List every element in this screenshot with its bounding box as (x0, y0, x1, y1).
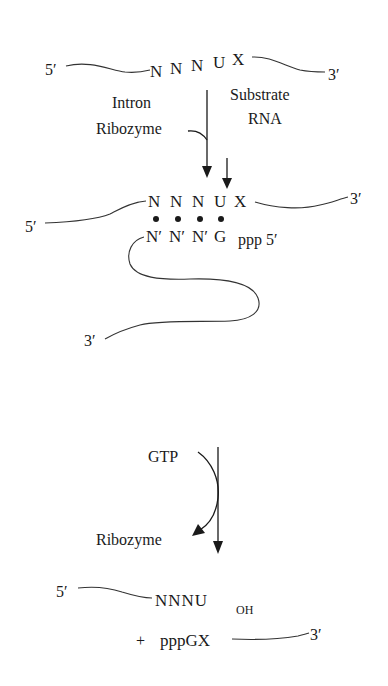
base-5: X (232, 50, 244, 69)
three-prime-label: 3′ (328, 66, 340, 83)
step1-labels: Intron Ribozyme Substrate RNA (96, 86, 290, 138)
five-prime-label: 5′ (25, 218, 37, 235)
base-3: N (191, 56, 203, 75)
product1-sequence: NNNU (155, 591, 208, 610)
intron-label: Intron (112, 94, 151, 111)
pair-dot (218, 216, 224, 222)
products: 5′ NNNU OH + pppGX 3′ (56, 583, 322, 650)
strand-5prime-segment (66, 64, 150, 72)
guide-base-1: N′ (146, 227, 162, 246)
base-1: N (148, 192, 160, 211)
substrate-rna-top: 5′ N N N U X 3′ (45, 50, 340, 83)
pair-dot (197, 216, 203, 222)
arrowhead-icon (192, 524, 205, 536)
bound-complex: 5′ N N N U X 3′ N′ N′ N′ G ppp 5′ 3′ (25, 190, 362, 349)
gtp-curved-arrow (198, 452, 218, 530)
substrate-label: Substrate (230, 86, 290, 103)
ribozyme-joining-hook (188, 131, 207, 140)
strand-3prime-segment (255, 197, 348, 208)
arrowhead-icon (213, 541, 223, 554)
guide-base-2: N′ (169, 227, 185, 246)
ribozyme-label: Ribozyme (96, 531, 162, 549)
ribozyme-loop-strand (105, 237, 259, 339)
base-1: N (150, 62, 162, 81)
base-4: U (214, 192, 226, 211)
cleavage-step: GTP Ribozyme (96, 447, 223, 554)
rna-label: RNA (248, 110, 282, 127)
three-prime-label: 3′ (84, 332, 96, 349)
product2-sequence: pppGX (160, 631, 210, 650)
hydroxyl-subscript: OH (236, 603, 254, 617)
strand-3prime-segment (232, 633, 309, 639)
three-prime-label: 3′ (310, 626, 322, 643)
plus-sign: + (136, 632, 145, 649)
strand-3prime-segment (252, 57, 325, 72)
arrowhead-icon (202, 166, 212, 178)
guide-base-4: G (214, 227, 226, 246)
ribozyme-label: Ribozyme (96, 120, 162, 138)
pair-dot (153, 216, 159, 222)
base-2: N (170, 192, 182, 211)
triphosphate-5prime-label: ppp 5′ (238, 231, 278, 249)
base-2: N (170, 59, 182, 78)
base-pairing-dots (153, 216, 224, 222)
five-prime-label: 5′ (56, 583, 68, 600)
gtp-label: GTP (148, 448, 178, 465)
guide-base-3: N′ (192, 227, 208, 246)
base-4: U (213, 53, 225, 72)
five-prime-label: 5′ (45, 61, 57, 78)
strand-5prime-segment (78, 587, 152, 598)
arrowhead-icon (222, 178, 232, 189)
ribozyme-cleavage-diagram: 5′ N N N U X 3′ Intron Ribozyme Substrat… (0, 0, 388, 686)
three-prime-label: 3′ (350, 190, 362, 207)
base-5: X (234, 192, 246, 211)
binding-arrows (188, 90, 232, 189)
pair-dot (175, 216, 181, 222)
base-3: N (192, 192, 204, 211)
strand-5prime-segment (45, 201, 146, 223)
